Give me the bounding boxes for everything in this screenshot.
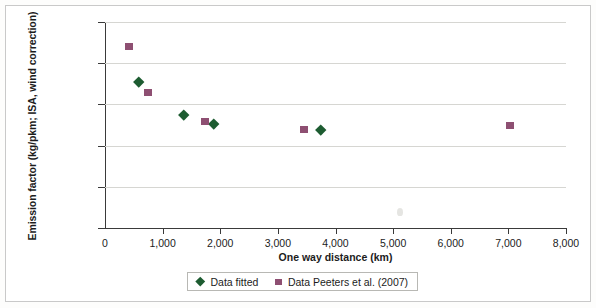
- x-tick: [220, 228, 221, 234]
- x-tick-label: 1,000: [133, 237, 193, 249]
- data-point-marker: [144, 89, 152, 96]
- y-tick: [98, 146, 105, 147]
- data-point-marker: [134, 76, 145, 87]
- data-point-marker: [316, 125, 327, 136]
- x-tick: [278, 228, 279, 234]
- page-artifact-smudge: [397, 208, 403, 216]
- gridline: [105, 146, 566, 147]
- x-tick-label: 4,000: [306, 237, 366, 249]
- x-tick-label: 3,000: [248, 237, 308, 249]
- x-tick-label: 7,000: [478, 237, 538, 249]
- data-point-marker: [179, 109, 190, 120]
- x-tick-label: 2,000: [190, 237, 250, 249]
- x-tick: [508, 228, 509, 234]
- x-tick-label: 5,000: [363, 237, 423, 249]
- y-axis-title: Emission factor (kg/pkm; ISA, wind corre…: [26, 11, 38, 241]
- x-tick-label: 8,000: [536, 237, 596, 249]
- legend-entry: Data Peeters et al. (2007): [275, 276, 408, 288]
- x-tick: [566, 228, 567, 234]
- plot-area: 00,050,100,150,200,25 01,0002,0003,0004,…: [105, 22, 566, 228]
- chart-legend: Data fittedData Peeters et al. (2007): [187, 272, 418, 291]
- gridline: [105, 104, 566, 105]
- gridline: [105, 187, 566, 188]
- y-tick: [98, 228, 105, 229]
- gridline: [105, 22, 566, 23]
- data-point-marker: [209, 118, 220, 129]
- x-tick: [451, 228, 452, 234]
- legend-entry: Data fitted: [197, 276, 258, 288]
- y-tick: [98, 187, 105, 188]
- data-point-marker: [201, 118, 209, 125]
- x-tick: [393, 228, 394, 234]
- data-point-marker: [506, 122, 514, 129]
- gridline: [105, 63, 566, 64]
- x-tick-label: 0: [75, 237, 135, 249]
- data-point-marker: [300, 126, 308, 133]
- y-tick: [98, 22, 105, 23]
- legend-diamond-icon: [196, 277, 205, 286]
- y-tick: [98, 63, 105, 64]
- legend-label: Data fitted: [211, 276, 259, 288]
- chart-figure: Emission factor (kg/pkm; ISA, wind corre…: [0, 0, 596, 308]
- x-tick: [336, 228, 337, 234]
- legend-square-icon: [275, 279, 282, 285]
- x-tick-label: 6,000: [421, 237, 481, 249]
- data-point-marker: [125, 43, 133, 50]
- x-tick: [163, 228, 164, 234]
- legend-label: Data Peeters et al. (2007): [288, 276, 408, 288]
- x-axis-title: One way distance (km): [105, 251, 566, 263]
- y-tick: [98, 104, 105, 105]
